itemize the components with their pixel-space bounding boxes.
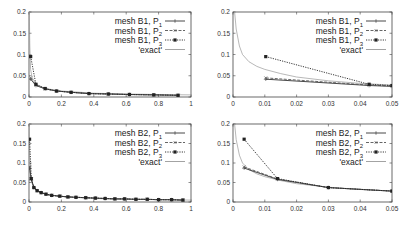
y-tick-label: 0.15 (13, 140, 26, 147)
plot-frame (29, 12, 191, 97)
series-line (235, 124, 392, 191)
y-tick-label: 0 (22, 93, 26, 100)
plot-frame (233, 124, 392, 202)
legend-label: 'exact' (138, 157, 162, 167)
series-line (266, 79, 392, 86)
series-line (31, 79, 178, 95)
series-line (29, 12, 191, 95)
x-tick-label: 0.05 (386, 205, 399, 212)
legend-label: 'exact' (339, 45, 363, 55)
legend-label: 'exact' (339, 157, 363, 167)
x-tick-label: 0.8 (154, 205, 163, 212)
y-tick-label: 0.15 (217, 140, 230, 147)
y-tick-label: 0.1 (17, 159, 26, 166)
x-tick-label: 1 (189, 205, 193, 212)
y-tick-label: 0.2 (221, 8, 230, 15)
y-tick-label: 0.15 (13, 30, 26, 37)
x-tick-label: 0.04 (354, 205, 367, 212)
plot-frame (29, 124, 191, 202)
x-tick-label: 0.02 (290, 100, 303, 107)
x-tick-label: 0.03 (322, 205, 335, 212)
y-tick-label: 0.2 (17, 120, 26, 127)
x-tick-label: 0.2 (57, 100, 66, 107)
x-tick-label: 0.01 (258, 100, 271, 107)
series-line (29, 124, 191, 200)
x-tick-label: 0.03 (322, 100, 335, 107)
legend-label: 'exact' (138, 45, 162, 55)
chart-panel-top-right: 00.010.020.030.040.0500.050.10.150.2mesh… (217, 8, 398, 107)
y-tick-label: 0 (226, 198, 230, 205)
chart-panel-top-left: 00.20.40.60.8100.050.10.150.2mesh B1, P1… (13, 8, 193, 107)
y-tick-label: 0.1 (221, 159, 230, 166)
series-line (235, 12, 392, 85)
y-tick-label: 0.2 (221, 120, 230, 127)
x-tick-label: 0.2 (57, 205, 66, 212)
x-tick-label: 0 (231, 205, 235, 212)
series-line (244, 168, 392, 191)
x-tick-label: 0.04 (354, 100, 367, 107)
x-tick-label: 0.6 (122, 205, 131, 212)
x-tick-label: 0.05 (386, 100, 399, 107)
x-tick-label: 0 (27, 205, 31, 212)
x-tick-label: 1 (189, 100, 193, 107)
y-tick-label: 0.05 (217, 179, 230, 186)
x-tick-label: 0.02 (290, 205, 303, 212)
x-tick-label: 0.4 (89, 100, 98, 107)
y-tick-label: 0.05 (217, 72, 230, 79)
x-tick-label: 0.4 (89, 205, 98, 212)
y-tick-label: 0.2 (17, 8, 26, 15)
chart-panel-bottom-left: 00.20.40.60.8100.050.10.150.2mesh B2, P1… (13, 120, 193, 212)
y-tick-label: 0 (226, 93, 230, 100)
y-tick-label: 0.1 (17, 51, 26, 58)
y-tick-label: 0.05 (13, 72, 26, 79)
y-tick-label: 0.1 (221, 51, 230, 58)
x-tick-label: 0 (231, 100, 235, 107)
series-line (244, 167, 392, 191)
chart-panel-bottom-right: 00.010.020.030.040.0500.050.10.150.2mesh… (217, 120, 398, 212)
x-tick-label: 0.8 (154, 100, 163, 107)
x-tick-label: 0.6 (122, 100, 131, 107)
series-line (31, 78, 178, 95)
figure: 00.20.40.60.8100.050.10.150.2mesh B1, P1… (0, 0, 408, 225)
y-tick-label: 0.15 (217, 30, 230, 37)
x-tick-label: 0 (27, 100, 31, 107)
x-tick-label: 0.01 (258, 205, 271, 212)
y-tick-label: 0 (22, 198, 26, 205)
y-tick-label: 0.05 (13, 179, 26, 186)
